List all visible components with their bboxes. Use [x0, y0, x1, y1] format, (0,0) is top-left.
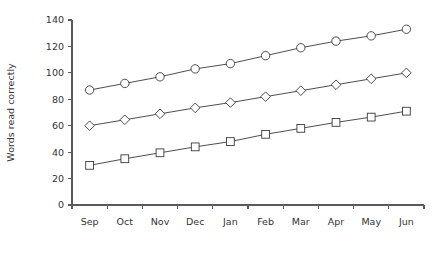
data-point-circle-jan — [226, 59, 234, 67]
data-point-diamond-feb — [261, 92, 271, 102]
data-point-square-sep — [86, 161, 94, 169]
x-axis-group: SepOctNovDecJanFebMarAprMayJun — [72, 205, 424, 227]
y-tick-label-20: 20 — [52, 173, 64, 184]
data-point-square-apr — [332, 119, 340, 127]
x-tick-label-nov: Nov — [151, 216, 170, 227]
x-tick-label-jan: Jan — [222, 216, 238, 227]
data-point-circle-dec — [191, 65, 199, 73]
data-point-circle-jun — [402, 25, 410, 33]
y-tick-group: 020406080100120140 — [46, 14, 72, 210]
y-tick-label-80: 80 — [52, 94, 64, 105]
y-tick-label-40: 40 — [52, 147, 64, 158]
x-tick-label-apr: Apr — [328, 216, 345, 227]
data-point-circle-sep — [85, 86, 93, 94]
data-point-circle-feb — [261, 51, 269, 59]
data-point-diamond-mar — [296, 86, 306, 96]
data-point-diamond-sep — [85, 121, 95, 131]
line-chart: 020406080100120140 Words read correctly … — [0, 0, 438, 253]
data-point-square-jun — [403, 107, 411, 115]
data-point-diamond-apr — [331, 80, 341, 90]
data-point-square-oct — [121, 155, 129, 163]
series-line-square — [90, 111, 407, 165]
data-point-diamond-oct — [120, 115, 130, 125]
x-tick-label-jun: Jun — [398, 216, 414, 227]
y-tick-label-120: 120 — [46, 41, 64, 52]
x-tick-label-group: SepOctNovDecJanFebMarAprMayJun — [81, 216, 414, 227]
data-point-diamond-jan — [226, 98, 236, 108]
data-point-square-jan — [227, 138, 235, 146]
data-point-square-may — [367, 113, 375, 121]
series-diamond-series — [85, 68, 411, 130]
data-point-circle-apr — [332, 37, 340, 45]
data-point-square-mar — [297, 124, 305, 132]
y-axis-group: 020406080100120140 Words read correctly — [5, 14, 72, 210]
data-point-circle-nov — [156, 73, 164, 81]
x-tick-label-feb: Feb — [257, 216, 274, 227]
y-axis-title: Words read correctly — [5, 63, 16, 162]
x-tick-label-oct: Oct — [117, 216, 134, 227]
data-point-circle-oct — [121, 79, 129, 87]
data-point-diamond-dec — [190, 103, 200, 113]
x-tick-label-may: May — [361, 216, 381, 227]
series-layer — [85, 25, 411, 169]
data-point-diamond-jun — [402, 68, 412, 78]
chart-container: 020406080100120140 Words read correctly … — [0, 0, 438, 253]
x-tick-label-sep: Sep — [81, 216, 99, 227]
y-tick-label-60: 60 — [52, 120, 64, 131]
y-tick-label-140: 140 — [46, 14, 64, 25]
data-point-diamond-may — [366, 74, 376, 84]
data-point-square-nov — [156, 149, 164, 157]
x-tick-label-mar: Mar — [292, 216, 310, 227]
data-point-square-feb — [262, 130, 270, 138]
x-tick-label-dec: Dec — [186, 216, 204, 227]
data-point-diamond-nov — [155, 109, 165, 119]
data-point-circle-mar — [297, 44, 305, 52]
series-circle-series — [85, 25, 410, 94]
series-square-series — [86, 107, 411, 169]
y-tick-label-0: 0 — [58, 199, 64, 210]
y-tick-label-100: 100 — [46, 67, 64, 78]
x-tick-group — [72, 205, 424, 209]
data-point-circle-may — [367, 32, 375, 40]
data-point-square-dec — [191, 143, 199, 151]
